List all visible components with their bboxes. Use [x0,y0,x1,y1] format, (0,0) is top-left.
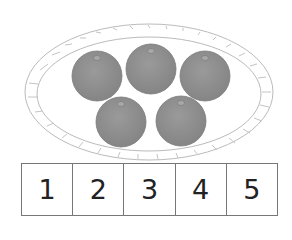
orange-icon [96,97,146,147]
number-cell-3[interactable]: 3 [124,164,175,215]
orange-icon [72,51,122,101]
number-strip: 1 2 3 4 5 [21,163,278,216]
orange-icon [126,44,176,94]
orange-icon [180,51,230,101]
number-cell-4[interactable]: 4 [176,164,227,215]
number-cell-5[interactable]: 5 [227,164,277,215]
oranges [72,44,230,147]
orange-icon [156,96,206,146]
number-cell-2[interactable]: 2 [73,164,124,215]
number-cell-1[interactable]: 1 [22,164,73,215]
